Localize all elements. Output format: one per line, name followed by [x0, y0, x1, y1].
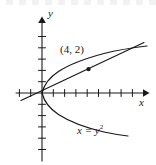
curve-equation-label: x = y2	[77, 125, 103, 136]
curve-equation-base: x = y	[77, 124, 100, 136]
axis-label-x: x	[139, 97, 144, 108]
figure-container: y x (4, 2) x = y2	[0, 0, 156, 165]
point-marker-4-2	[86, 67, 90, 71]
parabola-upper-branch	[42, 46, 147, 93]
curve-equation-exponent: 2	[100, 123, 104, 131]
graph-canvas	[0, 0, 156, 165]
axis-label-y: y	[48, 8, 53, 19]
point-label: (4, 2)	[60, 44, 84, 55]
y-axis-arrowhead	[38, 17, 46, 24]
